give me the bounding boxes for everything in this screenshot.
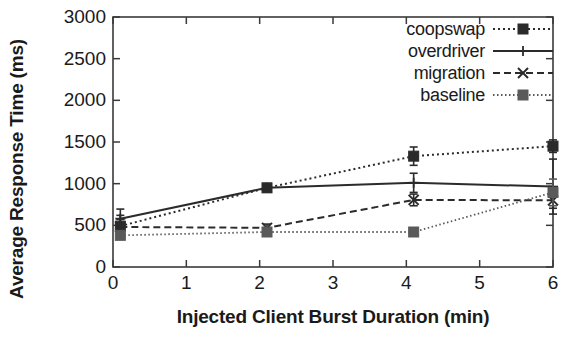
marker-square [262, 227, 272, 237]
marker-square [518, 24, 528, 34]
legend-item-baseline[interactable]: baseline [366, 84, 554, 106]
legend-swatch-baseline [492, 86, 554, 104]
series-baseline [115, 179, 558, 240]
marker-square [115, 230, 125, 240]
legend-item-coopswap[interactable]: coopswap [366, 18, 554, 40]
x-tick-label: 3 [313, 272, 353, 294]
legend-label: baseline [420, 85, 485, 106]
x-axis-title: Injected Client Burst Duration (min) [113, 306, 553, 328]
marker-square [518, 90, 528, 100]
series-migration [115, 192, 558, 234]
series-line [120, 192, 553, 235]
x-tick-label: 1 [166, 272, 206, 294]
legend-item-overdriver[interactable]: overdriver [366, 40, 554, 62]
x-tick-label: 6 [533, 272, 567, 294]
series-coopswap [115, 140, 558, 237]
x-tick-label: 0 [93, 272, 133, 294]
legend-swatch-migration [492, 64, 554, 82]
x-tick-label: 2 [240, 272, 280, 294]
legend-label: migration [414, 63, 485, 84]
legend-item-migration[interactable]: migration [366, 62, 554, 84]
legend-label: overdriver [408, 41, 485, 62]
chart-figure: Average Response Time (ms) 0500100015002… [0, 0, 567, 338]
legend-swatch-overdriver [492, 42, 554, 60]
chart-legend: coopswapoverdrivermigrationbaseline [366, 18, 554, 106]
series-overdriver [115, 159, 558, 228]
marker-square [548, 187, 558, 197]
legend-swatch-coopswap [492, 20, 554, 38]
x-tick-label: 5 [460, 272, 500, 294]
legend-label: coopswap [406, 19, 485, 40]
series-line [120, 183, 553, 219]
x-tick-label: 4 [386, 272, 426, 294]
data-series-group [115, 140, 558, 240]
marker-square [409, 151, 419, 161]
marker-square [548, 141, 558, 151]
marker-square [409, 227, 419, 237]
